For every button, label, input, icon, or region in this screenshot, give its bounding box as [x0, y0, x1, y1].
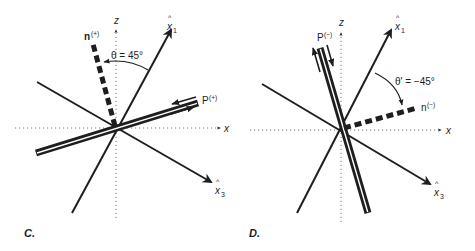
- x1-label-c: ^ x 1: [166, 14, 177, 34]
- svg-text:3: 3: [440, 193, 444, 200]
- x3-label-c: ^ x 3: [214, 178, 225, 198]
- svg-text:x: x: [394, 21, 401, 32]
- svg-text:(−): (−): [427, 101, 435, 109]
- svg-text:^: ^: [396, 14, 400, 21]
- svg-text:^: ^: [168, 14, 172, 21]
- x3-label-d: ^ x 3: [433, 180, 444, 200]
- svg-text:x: x: [166, 21, 173, 32]
- svg-text:n: n: [421, 102, 427, 113]
- plane-label-d: P (−): [317, 31, 332, 43]
- svg-text:x: x: [433, 187, 440, 198]
- angle-arc-c: [104, 61, 148, 70]
- svg-text:(+): (+): [209, 94, 217, 102]
- svg-text:(−): (−): [324, 31, 332, 39]
- panel-c: z x ^ x 1 ^ x 3 n (+) P (+) θ = 45° C.: [15, 14, 230, 239]
- svg-text:1: 1: [173, 27, 177, 34]
- svg-text:1: 1: [401, 27, 405, 34]
- x-label-d: x: [445, 125, 452, 136]
- z-label-c: z: [113, 15, 119, 26]
- svg-text:P: P: [202, 95, 209, 106]
- z-label-d: z: [338, 17, 344, 28]
- svg-text:(+): (+): [91, 30, 99, 38]
- normal-vector-d: [344, 108, 417, 128]
- svg-text:P: P: [317, 32, 324, 43]
- svg-text:n: n: [84, 31, 90, 42]
- svg-text:^: ^: [435, 180, 439, 187]
- svg-text:3: 3: [221, 191, 225, 198]
- svg-text:^: ^: [216, 178, 220, 185]
- angle-label-d: θ' = −45°: [395, 76, 435, 87]
- svg-text:x: x: [214, 185, 221, 196]
- panel-d: z x ^ x 1 ^ x 3 n (−) P (−) θ' = −45° D.: [249, 14, 452, 239]
- normal-label-d: n (−): [421, 101, 435, 113]
- x-label-c: x: [223, 123, 230, 134]
- x3-axis-c: [37, 82, 211, 182]
- panel-caption-c: C.: [24, 227, 35, 239]
- angle-label-c: θ = 45°: [111, 50, 143, 61]
- fault-plane-diagram: z x ^ x 1 ^ x 3 n (+) P (+) θ = 45° C.: [0, 0, 475, 251]
- fault-plane-d: [313, 45, 368, 213]
- plane-label-c: P (+): [202, 94, 217, 106]
- normal-label-c: n (+): [84, 30, 99, 42]
- x1-label-d: ^ x 1: [394, 14, 405, 34]
- panel-caption-d: D.: [249, 227, 260, 239]
